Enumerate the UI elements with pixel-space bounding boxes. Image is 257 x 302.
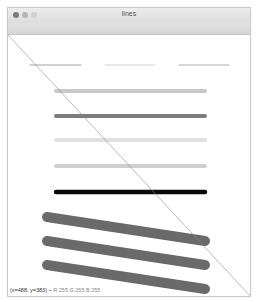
lines-drawing: [8, 35, 250, 296]
cursor-coords: (x=488, y=383) ~: [10, 287, 52, 293]
thick-line: [47, 241, 205, 265]
window-title: lines: [8, 10, 250, 17]
title-bar[interactable]: lines: [8, 8, 250, 24]
thick-line: [47, 265, 205, 289]
thick-line: [47, 217, 205, 241]
pixel-rgb: R:255 G:255 B:255: [53, 287, 100, 293]
status-bar: (x=488, y=383) ~ R:255 G:255 B:255: [10, 287, 100, 293]
drawing-canvas[interactable]: (x=488, y=383) ~ R:255 G:255 B:255: [8, 35, 250, 296]
app-window: lines (x=488, y=383) ~ R:255 G:255 B:255: [7, 7, 251, 297]
toolbar: [8, 23, 250, 35]
